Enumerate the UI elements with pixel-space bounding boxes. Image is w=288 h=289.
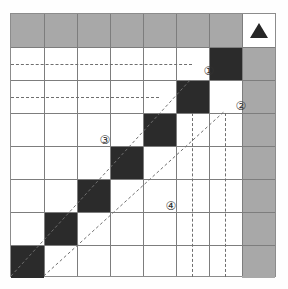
- grid-cell-r1-c7: [242, 47, 275, 80]
- matrix-grid-figure: ①②③④: [0, 0, 288, 289]
- grid-inner: ①②③④: [11, 14, 275, 276]
- dashed-diagonal-lower: [44, 112, 224, 276]
- dashed-row-guide-2: [11, 97, 159, 98]
- grid-cell-r0-c5: [176, 14, 209, 47]
- gridline-vertical-4: [143, 14, 144, 276]
- grid-cell-r0-c3: [110, 14, 143, 47]
- gridline-vertical-2: [77, 14, 78, 276]
- grid-cell-r5-c2: [77, 179, 110, 212]
- grid-cell-r7-c0: [11, 245, 44, 278]
- gridline-vertical-6: [209, 14, 210, 276]
- grid-cell-r3-c4: [143, 113, 176, 146]
- grid-cell-r4-c3: [110, 146, 143, 179]
- triangle-marker: [250, 23, 268, 38]
- grid-cell-r7-c7: [242, 245, 275, 278]
- dashed-col-guide-1: [192, 113, 193, 277]
- grid-cell-r4-c7: [242, 146, 275, 179]
- dashed-row-guide-1: [11, 64, 192, 65]
- callout-2: ②: [233, 99, 249, 115]
- grid-cell-r0-c6: [209, 14, 242, 47]
- grid-cell-r0-c4: [143, 14, 176, 47]
- grid-cell-r5-c7: [242, 179, 275, 212]
- gridline-vertical-5: [176, 14, 177, 276]
- grid-cell-r6-c1: [44, 212, 77, 245]
- callout-4: ④: [163, 199, 179, 215]
- grid-cell-r6-c7: [242, 212, 275, 245]
- dashed-col-guide-2: [225, 113, 226, 277]
- callout-1: ①: [201, 64, 217, 80]
- gridline-vertical-7: [242, 14, 243, 276]
- grid-cell-r0-c0: [11, 14, 44, 47]
- gridline-vertical-1: [44, 14, 45, 276]
- grid-cell-r3-c7: [242, 113, 275, 146]
- grid-cell-r0-c2: [77, 14, 110, 47]
- callout-3: ③: [97, 133, 113, 149]
- grid-frame: ①②③④: [10, 13, 276, 277]
- grid-cell-r2-c5: [176, 80, 209, 113]
- grid-cell-r0-c1: [44, 14, 77, 47]
